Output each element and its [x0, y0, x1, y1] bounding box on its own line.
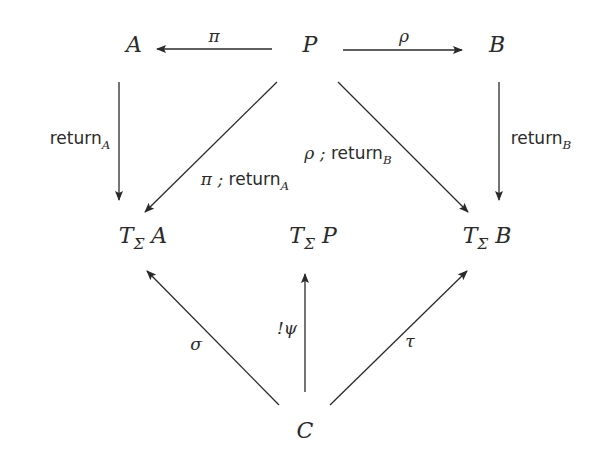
arrow-tau — [330, 271, 467, 405]
label-text: return — [331, 143, 383, 163]
term-functor-symbol: T — [119, 223, 134, 248]
label-prefix: π ; — [201, 169, 229, 189]
node-t-sigma-p: TΣ P — [289, 223, 336, 252]
label-subscript: B — [383, 153, 392, 167]
node-p: P — [303, 32, 318, 57]
label-rho: ρ — [399, 26, 409, 46]
label-tau: τ — [405, 331, 414, 351]
term-functor-symbol: T — [463, 223, 478, 248]
node-argument: A — [151, 223, 167, 248]
label-subscript: A — [102, 138, 111, 152]
label-subscript: B — [563, 138, 572, 152]
label-text: return — [229, 169, 281, 189]
label-pi: π — [208, 26, 219, 46]
node-argument: B — [495, 223, 511, 248]
label-rho-return-b: ρ ; returnB — [304, 143, 391, 166]
label-return-a: returnA — [50, 128, 111, 151]
node-t-sigma-b: TΣ B — [463, 223, 512, 252]
node-argument: P — [322, 223, 337, 248]
arrow-sigma — [147, 271, 279, 405]
signature-subscript: Σ — [477, 235, 488, 253]
node-c: C — [297, 418, 314, 443]
node-t-sigma-a: TΣ A — [119, 223, 167, 252]
node-a: A — [126, 32, 142, 57]
label-text: return — [511, 128, 563, 148]
label-psi: !ψ — [277, 318, 297, 338]
label-return-b: returnB — [511, 128, 572, 151]
label-pi-return-a: π ; returnA — [201, 169, 289, 192]
term-functor-symbol: T — [289, 223, 304, 248]
label-sigma: σ — [190, 334, 202, 354]
node-b: B — [489, 32, 505, 57]
label-subscript: A — [281, 179, 290, 193]
label-prefix: ρ ; — [304, 143, 331, 163]
signature-subscript: Σ — [304, 235, 315, 253]
signature-subscript: Σ — [133, 235, 144, 253]
label-text: return — [50, 128, 102, 148]
